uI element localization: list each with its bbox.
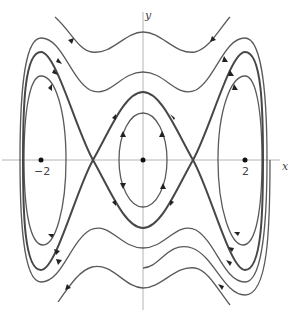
arrow-icon (234, 232, 240, 236)
y-axis-label: y (145, 10, 151, 21)
arrow-icon (159, 131, 165, 137)
phase-portrait (0, 0, 298, 317)
arrow-icon (68, 38, 74, 44)
arrow-icon (56, 259, 62, 265)
arrow-icon (160, 183, 166, 189)
arrow-icon (222, 56, 228, 62)
arrow-icon (56, 58, 62, 64)
equilibrium-point (141, 158, 146, 163)
bottom-open-trajectory (58, 266, 230, 305)
arrow-icon (120, 131, 126, 137)
x-axis-label: x (282, 161, 288, 172)
equilibrium-point (243, 158, 248, 163)
arrow-icon (120, 183, 126, 189)
equilibrium-point (39, 158, 44, 163)
arrow-icon (226, 260, 232, 266)
arrow-icon (48, 84, 52, 91)
tick-label-neg-2: −2 (34, 166, 50, 177)
tick-label-2: 2 (242, 166, 249, 177)
